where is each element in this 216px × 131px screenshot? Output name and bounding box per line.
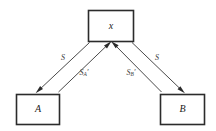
- node-B-label: B: [179, 103, 185, 114]
- edge-label-x-to-B: S: [155, 53, 159, 62]
- edge-x-to-B-line: [132, 43, 183, 92]
- edge-B-to-x: [111, 41, 161, 92]
- edge-label-B-to-x-prime: ′: [134, 68, 136, 77]
- edge-x-to-B: [132, 43, 185, 94]
- node-B[interactable]: B: [161, 95, 205, 125]
- edge-B-to-x-line: [114, 44, 162, 93]
- node-A-label: A: [34, 103, 42, 114]
- diagram-canvas: x A B S SA′ SB′ S: [0, 0, 216, 131]
- edge-label-x-to-A-base: S: [61, 53, 65, 62]
- edge-x-to-A-line: [38, 43, 90, 92]
- node-A[interactable]: A: [17, 95, 60, 125]
- edge-A-to-x-line: [59, 44, 110, 93]
- diagram-svg: x A B S SA′ SB′ S: [0, 0, 216, 131]
- edge-label-B-to-x: SB′: [126, 68, 135, 77]
- node-x[interactable]: x: [89, 11, 134, 42]
- edge-A-to-x: [59, 41, 112, 92]
- edge-label-A-to-x-prime: ′: [87, 68, 89, 77]
- node-x-label: x: [108, 20, 114, 31]
- edge-label-x-to-B-base: S: [155, 53, 159, 62]
- edge-label-x-to-A: S: [61, 53, 65, 62]
- edge-label-A-to-x: SA′: [79, 68, 88, 77]
